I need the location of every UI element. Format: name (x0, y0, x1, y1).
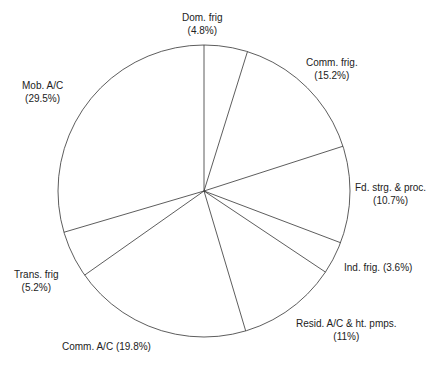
label-fd-strg: Fd. strg. & proc.(10.7%) (355, 181, 426, 207)
label-mob-ac: Mob. A/C(29.5%) (22, 79, 63, 105)
label-dom-frig: Dom. frig(4.8%) (182, 11, 223, 37)
label-comm-frig: Comm. frig.(15.2%) (306, 56, 358, 82)
label-comm-ac: Comm. A/C (19.8%) (62, 340, 151, 353)
label-ind-frig: Ind. frig. (3.6%) (344, 261, 412, 274)
label-trans-frig: Trans. frig(5.2%) (14, 268, 59, 294)
label-resid-ac: Resid. A/C & ht. pmps.(11%) (296, 317, 397, 343)
